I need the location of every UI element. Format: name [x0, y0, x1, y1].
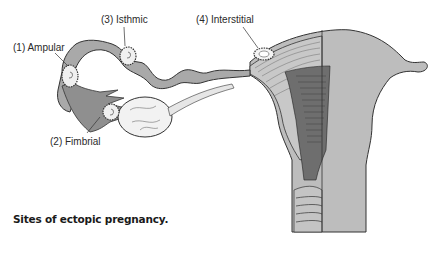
cervix	[294, 186, 322, 232]
label-interstitial: (4) Interstitial	[196, 14, 254, 26]
ovarian-ligament	[168, 84, 234, 116]
label-isthmic: (3) Isthmic	[101, 14, 148, 26]
site-fimbrial	[103, 104, 119, 120]
site-isthmic	[120, 47, 136, 65]
label-fimbrial: (2) Fimbrial	[50, 136, 101, 148]
figure-caption: Sites of ectopic pregnancy.	[13, 213, 168, 225]
fimbriae	[62, 82, 128, 132]
site-interstitial	[254, 48, 274, 60]
label-ampular: (1) Ampular	[13, 42, 65, 54]
ovary	[118, 97, 172, 137]
site-ampular	[62, 65, 78, 87]
